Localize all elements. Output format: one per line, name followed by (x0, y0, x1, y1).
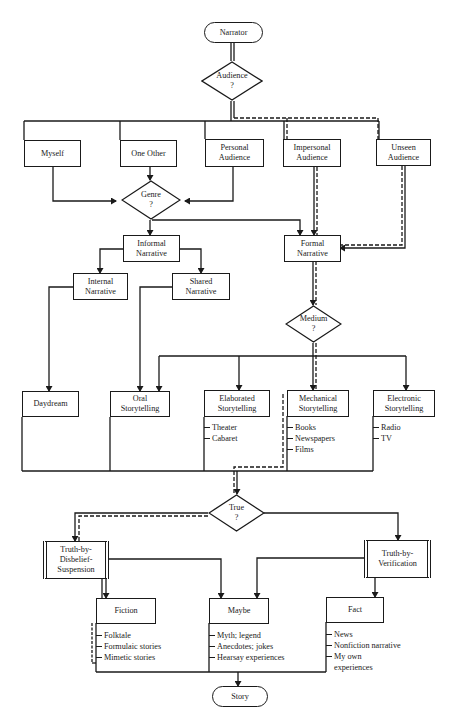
list-item: Theater (204, 422, 237, 433)
outcome-maybe-node: Maybe (209, 598, 269, 624)
audience-one-other-node: One Other (120, 140, 177, 167)
audience-one-other-label: One Other (131, 149, 165, 159)
shared-narrative-label: Shared Narrative (175, 277, 227, 297)
true-decision-label: True (229, 503, 244, 513)
audience-myself-label: Myself (41, 149, 64, 159)
list-item: Books (287, 422, 335, 433)
internal-narrative-node: Internal Narrative (73, 273, 128, 300)
true-decision-mark: ? (235, 513, 239, 523)
maybe-examples-list: Myth; legend Anecdotes; jokes Hearsay ex… (209, 630, 285, 663)
audience-personal-node: Personal Audience (205, 139, 264, 167)
medium-mechanical-label: Mechanical Storytelling (290, 394, 346, 414)
outcome-fact-label: Fact (348, 605, 362, 615)
story-end-node: Story (212, 686, 268, 707)
list-item: Folktale (96, 630, 161, 641)
medium-decision-label: Medium (300, 314, 328, 324)
audience-decision-label: Audience (216, 71, 247, 81)
audience-decision: Audience ? (201, 61, 263, 101)
informal-narrative-node: Informal Narrative (123, 235, 180, 262)
internal-narrative-label: Internal Narrative (76, 277, 125, 297)
fiction-examples-list: Folktale Formulaic stories Mimetic stori… (96, 630, 161, 663)
medium-mechanical-node: Mechanical Storytelling (287, 390, 349, 417)
audience-unseen-node: Unseen Audience (376, 139, 431, 166)
formal-narrative-label: Formal Narrative (287, 239, 338, 259)
list-item: News (326, 629, 401, 640)
story-label: Story (231, 692, 249, 702)
medium-electronic-node: Electronic Storytelling (373, 390, 435, 417)
genre-decision-label: Genre (141, 190, 161, 200)
genre-decision-mark: ? (149, 200, 153, 210)
list-item: Films (287, 444, 335, 455)
audience-decision-mark: ? (230, 81, 234, 91)
audience-impersonal-node: Impersonal Audience (283, 139, 341, 167)
truth-by-disbelief-label: Truth-by-Disbelief-Suspension (51, 545, 101, 575)
elaborated-examples-list: Theater Cabaret (204, 422, 237, 444)
outcome-fiction-label: Fiction (114, 606, 137, 616)
list-item: TV (373, 433, 401, 444)
list-item: Myth; legend (209, 630, 285, 641)
medium-daydream-label: Daydream (33, 399, 67, 409)
audience-personal-label: Personal Audience (208, 143, 261, 163)
truth-by-verification-node: Truth-by-Verification (364, 540, 431, 578)
formal-narrative-node: Formal Narrative (284, 235, 341, 262)
medium-elaborated-node: Elaborated Storytelling (204, 390, 270, 417)
shared-narrative-node: Shared Narrative (172, 273, 230, 300)
list-item: Formulaic stories (96, 641, 161, 652)
electronic-examples-list: Radio TV (373, 422, 401, 444)
flowchart-canvas: Narrator Story Audience ? Genre ? Medium… (0, 0, 452, 722)
truth-by-verification-label: Truth-by-Verification (373, 549, 423, 569)
list-item: Newspapers (287, 433, 335, 444)
outcome-maybe-label: Maybe (228, 606, 251, 616)
audience-unseen-label: Unseen Audience (379, 143, 428, 163)
narrator-start-node: Narrator (204, 22, 263, 43)
truth-by-disbelief-node: Truth-by-Disbelief-Suspension (43, 541, 109, 579)
fact-examples-list: News Nonfiction narrative My own experie… (326, 629, 401, 673)
true-decision: True ? (208, 494, 265, 532)
medium-elaborated-label: Elaborated Storytelling (207, 394, 267, 414)
audience-impersonal-label: Impersonal Audience (286, 143, 338, 163)
medium-decision-mark: ? (312, 324, 316, 334)
list-item: Radio (373, 422, 401, 433)
medium-decision: Medium ? (285, 305, 342, 343)
list-item: Mimetic stories (96, 652, 161, 663)
list-item: experiences (326, 662, 401, 673)
outcome-fiction-node: Fiction (96, 598, 156, 624)
list-item: Anecdotes; jokes (209, 641, 285, 652)
medium-oral-node: Oral Storytelling (110, 391, 170, 417)
genre-decision: Genre ? (121, 180, 181, 220)
list-item: Cabaret (204, 433, 237, 444)
outcome-fact-node: Fact (326, 597, 384, 623)
list-item: My own (326, 651, 401, 662)
mechanical-examples-list: Books Newspapers Films (287, 422, 335, 455)
list-item: Nonfiction narrative (326, 640, 401, 651)
narrator-label: Narrator (220, 28, 248, 38)
medium-electronic-label: Electronic Storytelling (376, 394, 432, 414)
informal-narrative-label: Informal Narrative (126, 239, 177, 259)
audience-myself-node: Myself (24, 140, 81, 167)
medium-daydream-node: Daydream (22, 391, 79, 417)
medium-oral-label: Oral Storytelling (113, 394, 167, 414)
list-item: Hearsay experiences (209, 652, 285, 663)
